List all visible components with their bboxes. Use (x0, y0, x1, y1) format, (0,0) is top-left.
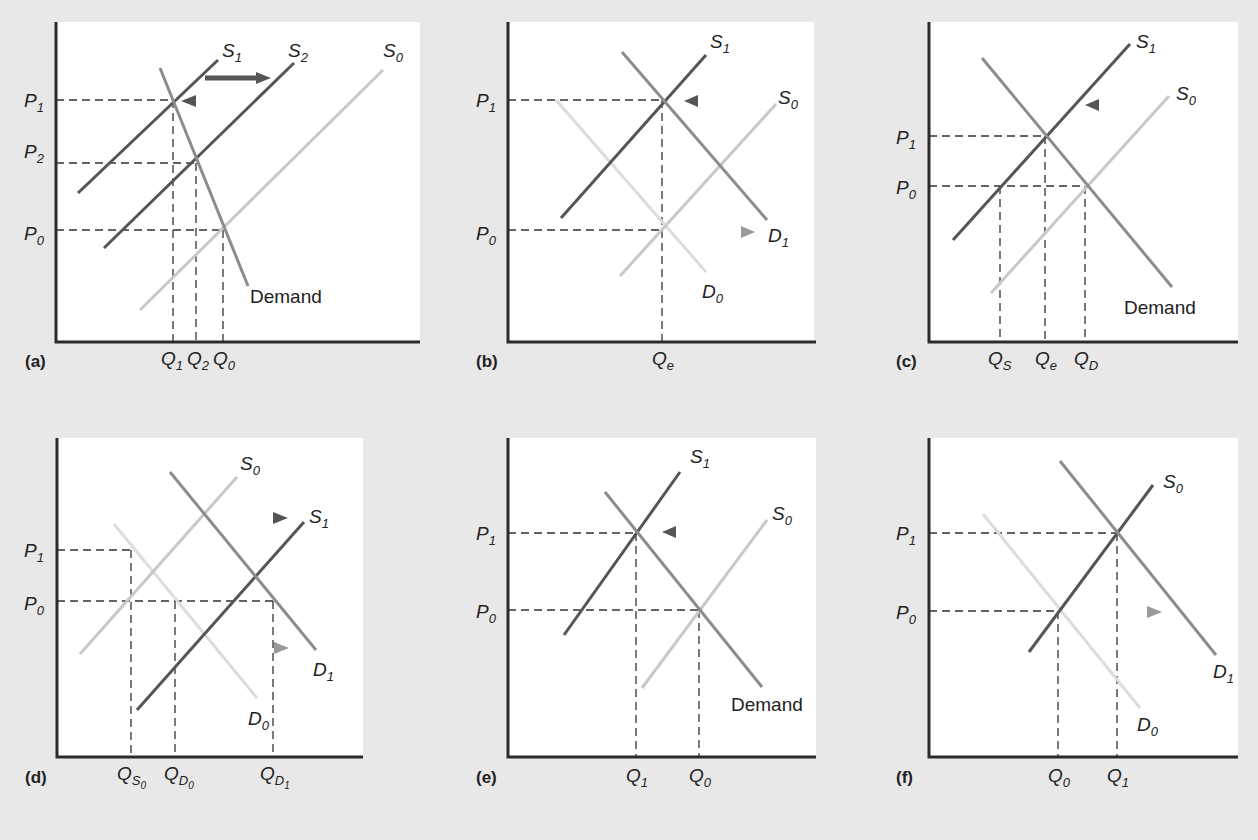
label-p1: P1 (896, 523, 916, 548)
label-qd1: QD1 (260, 763, 290, 791)
label-qs0: QS0 (117, 763, 146, 791)
label-demand: Demand (1124, 297, 1196, 318)
label-qe: Qe (1035, 348, 1057, 373)
panel-b: S1 S0 D1 D0 P1 P0 Qe (b) (420, 0, 840, 400)
plot-area (56, 22, 420, 342)
panel-f: S0 D1 D0 P1 P0 Q0 Q1 (f) (840, 420, 1258, 840)
label-p0: P0 (24, 593, 45, 618)
panel-tag: (b) (476, 352, 498, 371)
label-p1: P1 (476, 90, 496, 115)
label-p0: P0 (24, 223, 45, 248)
label-q2: Q2 (187, 348, 210, 373)
label-qd0: QD0 (164, 763, 194, 791)
label-q1: Q1 (161, 348, 183, 373)
label-q1: Q1 (1107, 765, 1129, 790)
panel-tag: (e) (476, 768, 497, 787)
label-q1: Q1 (626, 765, 648, 790)
panel-e: S1 S0 Demand P1 P0 Q1 Q0 (e) (420, 420, 840, 840)
label-p1: P1 (476, 523, 496, 548)
panel-d: S0 S1 D1 D0 P1 P0 QS0 QD0 QD1 (d) (0, 420, 420, 840)
panel-tag: (a) (25, 352, 46, 371)
supply-demand-figure: S1 S2 S0 Demand P1 P2 P0 Q1 Q2 Q0 (a) S (0, 0, 1258, 840)
label-p0: P0 (476, 223, 497, 248)
label-qd: QD (1074, 348, 1098, 373)
label-p0: P0 (896, 177, 917, 202)
panel-tag: (c) (896, 352, 917, 371)
label-q0: Q0 (689, 765, 712, 790)
label-qe: Qe (652, 348, 674, 373)
panel-a: S1 S2 S0 Demand P1 P2 P0 Q1 Q2 Q0 (a) (0, 0, 420, 400)
label-demand: Demand (250, 286, 322, 307)
label-demand: Demand (731, 694, 803, 715)
label-p1: P1 (24, 540, 44, 565)
label-p2: P2 (24, 141, 45, 166)
label-p1: P1 (24, 90, 44, 115)
label-p1: P1 (896, 127, 916, 152)
label-qs: QS (988, 348, 1012, 373)
panel-tag: (d) (25, 768, 47, 787)
label-p0: P0 (476, 601, 497, 626)
label-q0: Q0 (1048, 765, 1071, 790)
label-q0: Q0 (213, 348, 236, 373)
panel-tag: (f) (896, 768, 913, 787)
panel-c: S1 S0 Demand P1 P0 QS Qe QD (c) (840, 0, 1258, 400)
label-p0: P0 (896, 602, 917, 627)
